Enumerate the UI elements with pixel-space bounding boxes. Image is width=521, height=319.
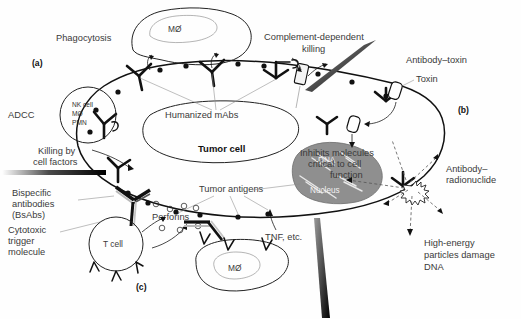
- cytotoxic-line2: trigger: [8, 236, 34, 246]
- cytotoxic-line1: Cytotoxic: [8, 225, 47, 235]
- panel-b-label: (b): [458, 105, 469, 115]
- inhibits-line2: critical to cell: [308, 159, 361, 169]
- macrophage-bottom-shape: [196, 239, 289, 291]
- phagocytosis-label: Phagocytosis: [56, 33, 112, 43]
- complement-line2: killing: [302, 44, 325, 54]
- free-toxin-capsule: [346, 115, 361, 133]
- bottom-bispecific-antibody: [184, 221, 225, 240]
- bispecific-line1: Bispecific: [12, 188, 52, 198]
- inhibits-line1: Inhibits molecules: [300, 148, 374, 158]
- nucleus-label: Nucleus: [310, 186, 340, 195]
- antibody-radionuclide-line2: radionuclide: [446, 175, 496, 185]
- antibody-toxin-label: Antibody–toxin: [406, 55, 467, 65]
- cytotoxic-line3: molecule: [8, 247, 45, 257]
- tnf-label: TNF, etc.: [265, 232, 302, 242]
- membrane-spike-bottom: [314, 218, 330, 318]
- effector-cell-shape: [60, 87, 116, 143]
- perforin-arrow-right: [152, 226, 186, 248]
- perforins-label: Perforins: [152, 212, 190, 222]
- toxin-label: Toxin: [416, 74, 438, 84]
- panel-c-label: (c): [136, 282, 147, 292]
- t-cell-receptors: [90, 262, 143, 281]
- cytotoxic-leader: [60, 222, 100, 232]
- killing-line2: cell factors: [33, 157, 78, 167]
- effector-mo-label: MØ: [72, 110, 83, 117]
- toxin-capsule-icon: [387, 81, 403, 101]
- high-energy-line3: DNA: [424, 262, 444, 272]
- inhibits-line3: function: [330, 170, 363, 180]
- high-energy-line1: High-energy: [424, 238, 475, 248]
- bispecific-line3: (BsAbs): [12, 210, 45, 220]
- panel-a-label: (a): [32, 58, 43, 68]
- macrophage-top-label: MØ: [168, 24, 182, 34]
- adcc-label: ADCC: [8, 110, 35, 120]
- bispecific-antibody-icon: [116, 187, 150, 226]
- cell-factor-bar: [2, 170, 106, 175]
- killing-line1: Killing by: [38, 146, 76, 156]
- diagram-canvas: DNA Nucleus MØ: [0, 0, 521, 319]
- complement-line1: Complement-dependent: [264, 32, 364, 42]
- effector-pmn-label: PMN: [72, 119, 87, 126]
- antibody-group-left: [108, 158, 130, 182]
- bispecific-line2: antibodies: [12, 199, 55, 209]
- effector-nk-label: NK cell: [72, 101, 93, 108]
- high-energy-line2: particles damage: [424, 250, 495, 260]
- bispecific-leader: [78, 196, 114, 200]
- toxin-entry-arrow: [366, 102, 396, 124]
- tumor-antigens-label: Tumor antigens: [199, 184, 264, 194]
- macrophage-top-inner: [150, 15, 217, 42]
- diagram-figure: DNA Nucleus MØ: [0, 0, 521, 319]
- antibody-radionuclide-line1: Antibody–: [446, 164, 488, 174]
- humanized-mabs-label: Humanized mAbs: [165, 110, 239, 120]
- macrophage-bottom-label: MØ: [228, 263, 242, 273]
- t-cell-label: T cell: [103, 239, 123, 249]
- humanized-mabs-leaders: [140, 74, 278, 110]
- tumor-cell-label: Tumor cell: [198, 143, 245, 154]
